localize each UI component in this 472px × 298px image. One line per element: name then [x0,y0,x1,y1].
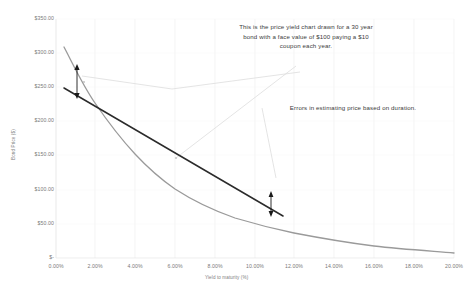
callout-errors: Errors in estimating price based on dura… [250,103,456,113]
x-tick-label-2: 2.00% [77,263,113,269]
y-tick-label-zero: $- [10,254,54,260]
price-yield-chart: $350.00 $300.00 $250.00 $200.00 $150.00 … [0,0,472,298]
x-tick-label-18: 18.00% [396,263,432,269]
x-tick-label-14: 14.00% [316,263,352,269]
error-arrow-right [269,191,274,217]
error-arrow-left [74,64,79,99]
callout-main: This is the price yield chart drawn for … [188,22,424,51]
tangent-point-marker [175,157,177,159]
x-tick-label-20: 20.00% [436,263,472,269]
y-tick-label-150: $150.00 [10,151,54,157]
y-tick-label-350: $350.00 [10,15,54,21]
x-tick-label-10: 10.00% [237,263,273,269]
y-tick-label-200: $200.00 [10,117,54,123]
x-tick-label-12: 12.00% [276,263,312,269]
callout-leader-lines [82,66,300,178]
y-axis-title: Bond Price ($) [11,129,16,160]
grid-lines [56,19,454,258]
y-tick-label-250: $250.00 [10,83,54,89]
y-tick-label-50: $50.00 [10,220,54,226]
x-tick-label-16: 16.00% [356,263,392,269]
x-tick-label-6: 6.00% [157,263,193,269]
x-axis-title: Yield to maturity (%) [205,275,248,280]
x-tick-label-0: 0.00% [38,263,74,269]
price-yield-curve [64,47,454,253]
y-tick-label-300: $300.00 [10,49,54,55]
x-tick-label-8: 8.00% [197,263,233,269]
x-tick-label-4: 4.00% [117,263,153,269]
error-label-left-marker [83,81,85,83]
y-tick-label-100: $100.00 [10,186,54,192]
